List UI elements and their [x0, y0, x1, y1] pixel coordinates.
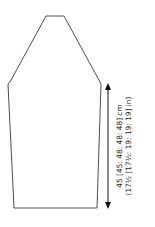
arrow-head-down-icon	[105, 202, 111, 209]
measurement-in-label: (17½ [17½: 19: 19: 19] in)	[124, 96, 133, 195]
sleeve-outline	[8, 16, 101, 208]
sleeve-schematic: 45 [45: 48: 48: 48] cm (17½ [17½: 19: 19…	[0, 0, 155, 227]
length-arrow	[105, 83, 111, 209]
arrow-head-up-icon	[105, 83, 111, 90]
measurement-cm-label: 45 [45: 48: 48: 48] cm	[115, 104, 124, 187]
